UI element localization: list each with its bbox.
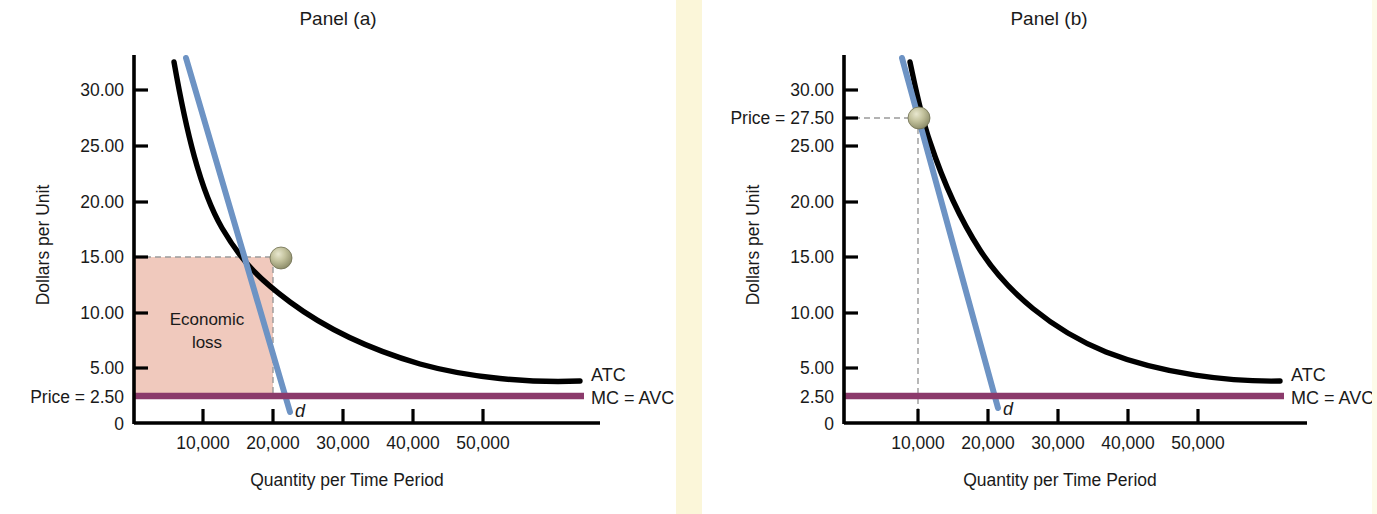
panel-a-xtick-30000: 30,000 (316, 433, 370, 453)
panel-a-xtick-40000: 40,000 (386, 433, 440, 453)
equilibrium-marker-panel-a (270, 247, 292, 269)
panel-a: Panel (a) (0, 0, 676, 514)
economic-loss-label-line2: loss (192, 333, 222, 352)
panel-b-price-label: Price = 27.50 (730, 108, 834, 128)
atc-label-panel-b: ATC (1291, 365, 1326, 385)
panel-a-ytick-10: 10.00 (80, 303, 124, 323)
panel-divider-strip (676, 0, 702, 514)
panel-a-chart: Panel (a) (0, 0, 676, 514)
panel-a-price-label: Price = 2.50 (30, 387, 124, 407)
panel-a-origin-label: 0 (114, 414, 124, 434)
panel-a-x-ticks (203, 409, 483, 423)
panel-a-ytick-25: 25.00 (80, 136, 124, 156)
panel-a-ytick-5: 5.00 (90, 358, 124, 378)
panel-b-xtick-10000: 10,000 (891, 433, 945, 453)
demand-label-panel-b: d (1003, 399, 1014, 419)
panel-b-x-axis-title: Quantity per Time Period (963, 470, 1157, 490)
panel-b-ytick-30: 30.00 (790, 80, 834, 100)
panel-b-xtick-30000: 30,000 (1031, 433, 1085, 453)
panel-b-y-axis-title: Dollars per Unit (743, 185, 763, 306)
panel-a-title: Panel (a) (299, 8, 376, 29)
panel-b-xtick-40000: 40,000 (1101, 433, 1155, 453)
atc-label-panel-a: ATC (591, 365, 626, 385)
panel-b-ytick-20: 20.00 (790, 192, 834, 212)
panel-b-x-ticks (918, 409, 1198, 423)
demand-label-panel-a: d (295, 401, 306, 421)
panel-a-xtick-10000: 10,000 (176, 433, 230, 453)
panel-a-xtick-20000: 20,000 (246, 433, 300, 453)
panel-a-ytick-15: 15.00 (80, 247, 124, 267)
equilibrium-marker-panel-b (908, 107, 930, 129)
panel-a-ytick-30: 30.00 (80, 80, 124, 100)
panel-a-x-axis-title: Quantity per Time Period (250, 470, 444, 490)
panel-b-chart: Panel (b) (702, 0, 1377, 514)
panel-b-y-ticks (844, 90, 858, 368)
panel-b-title: Panel (b) (1010, 8, 1087, 29)
page-right-edge-strip (1372, 0, 1377, 514)
economics-figure: Panel (a) (0, 0, 1377, 514)
panel-b-ytick-2-50: 2.50 (800, 387, 834, 407)
economic-loss-label-line1: Economic (170, 310, 245, 329)
panel-a-y-axis-title: Dollars per Unit (33, 185, 53, 306)
panel-b-ytick-10: 10.00 (790, 303, 834, 323)
panel-a-xtick-50000: 50,000 (456, 433, 510, 453)
mc-avc-label-panel-a: MC = AVC (591, 388, 674, 408)
panel-b-origin-label: 0 (824, 414, 834, 434)
mc-avc-label-panel-b: MC = AVC (1291, 388, 1374, 408)
panel-b: Panel (b) (702, 0, 1377, 514)
panel-b-xtick-50000: 50,000 (1171, 433, 1225, 453)
panel-b-xtick-20000: 20,000 (961, 433, 1015, 453)
panel-a-ytick-20: 20.00 (80, 192, 124, 212)
atc-curve-panel-b (910, 62, 1280, 381)
panel-b-ytick-5: 5.00 (800, 358, 834, 378)
panel-b-ytick-15: 15.00 (790, 247, 834, 267)
panel-b-ytick-25: 25.00 (790, 136, 834, 156)
